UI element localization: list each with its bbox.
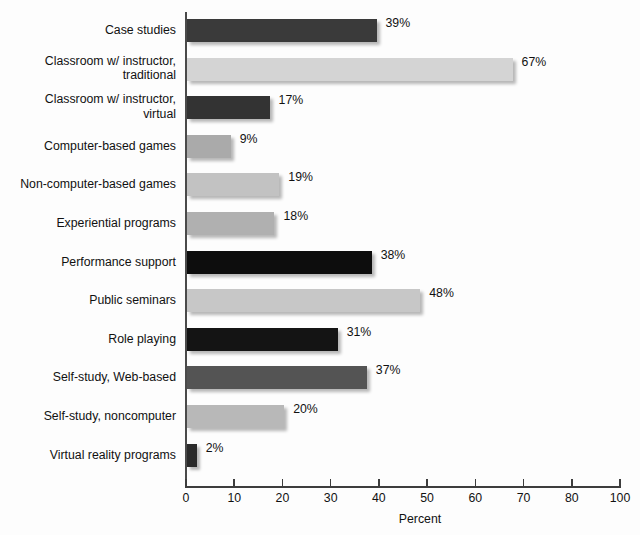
tick-mark — [185, 479, 187, 487]
tick-mark — [523, 479, 525, 487]
tick-mark — [378, 479, 380, 487]
bar-chart: Case studies39%Classroom w/ instructor, … — [0, 0, 640, 535]
tick-label: 50 — [420, 491, 434, 506]
tick-label: 40 — [372, 491, 386, 506]
x-axis-title: Percent — [0, 512, 640, 526]
tick-label: 100 — [610, 491, 631, 506]
tick-mark — [233, 479, 235, 487]
tick-label: 10 — [227, 491, 241, 506]
tick-label: 30 — [324, 491, 338, 506]
tick-mark — [571, 479, 573, 487]
tick-mark — [619, 479, 621, 487]
tick-mark — [475, 479, 477, 487]
tick-label: 80 — [565, 491, 579, 506]
tick-mark — [330, 479, 332, 487]
tick-mark — [426, 479, 428, 487]
tick-mark — [282, 479, 284, 487]
tick-label: 70 — [517, 491, 531, 506]
tick-label: 60 — [468, 491, 482, 506]
plot-area: Case studies39%Classroom w/ instructor, … — [0, 0, 640, 535]
tick-label: 20 — [276, 491, 290, 506]
x-axis-ticks: 01020304050607080100 — [0, 0, 640, 535]
tick-label: 0 — [183, 491, 190, 506]
x-axis-title-label: Percent — [399, 512, 441, 526]
